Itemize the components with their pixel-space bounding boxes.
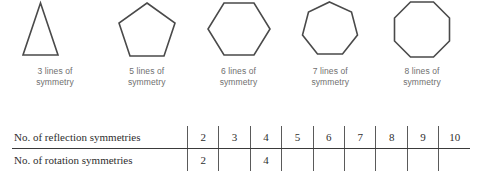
symmetry-table: No. of reflection symmetries 2 3 4 5 6 7… <box>12 126 470 171</box>
reflection-cell-9[interactable]: 10 <box>439 126 470 149</box>
shape-cell-pentagon: 5 lines of symmetry <box>104 0 190 88</box>
heptagon-outline <box>303 2 358 54</box>
triangle-icon <box>20 0 90 60</box>
reflection-cell-7[interactable]: 8 <box>376 126 407 149</box>
triangle-outline <box>23 3 58 55</box>
rotation-cell-7[interactable] <box>376 149 407 172</box>
rotation-cell-6[interactable] <box>345 149 376 172</box>
reflection-cell-1[interactable]: 2 <box>187 126 218 149</box>
shape-caption-pentagon: 5 lines of symmetry <box>128 66 166 88</box>
rotation-cell-2[interactable] <box>219 149 250 172</box>
row-label-reflection: No. of reflection symmetries <box>12 126 187 149</box>
reflection-cell-2[interactable]: 3 <box>219 126 250 149</box>
reflection-cell-5[interactable]: 6 <box>313 126 344 149</box>
octagon-icon <box>387 0 457 60</box>
rotation-cell-9[interactable] <box>439 149 470 172</box>
shape-caption-heptagon: 7 lines of symmetry <box>311 66 349 88</box>
shape-caption-triangle: 3 lines of symmetry <box>36 66 74 88</box>
shape-caption-hexagon: 6 lines of symmetry <box>220 66 258 88</box>
shape-cell-hexagon: 6 lines of symmetry <box>196 0 282 88</box>
heptagon-icon <box>295 0 365 60</box>
shape-cell-heptagon: 7 lines of symmetry <box>287 0 373 88</box>
hexagon-icon <box>204 0 274 60</box>
reflection-cell-8[interactable]: 9 <box>407 126 438 149</box>
table-row-reflection: No. of reflection symmetries 2 3 4 5 6 7… <box>12 126 470 149</box>
shape-cell-octagon: 8 lines of symmetry <box>379 0 465 88</box>
pentagon-outline <box>119 3 175 56</box>
shape-caption-octagon: 8 lines of symmetry <box>403 66 441 88</box>
rotation-cell-4[interactable] <box>282 149 313 172</box>
table-row-rotation: No. of rotation symmetries 2 4 <box>12 149 470 172</box>
rotation-cell-8[interactable] <box>407 149 438 172</box>
rotation-cell-3[interactable]: 4 <box>250 149 281 172</box>
shape-cell-triangle: 3 lines of symmetry <box>12 0 98 88</box>
row-label-rotation: No. of rotation symmetries <box>12 149 187 172</box>
octagon-outline <box>395 2 450 57</box>
shapes-strip: 3 lines of symmetry 5 lines of symmetry … <box>0 0 477 100</box>
hexagon-outline <box>208 3 270 55</box>
rotation-cell-5[interactable] <box>313 149 344 172</box>
rotation-cell-1[interactable]: 2 <box>187 149 218 172</box>
pentagon-icon <box>112 0 182 60</box>
reflection-cell-6[interactable]: 7 <box>345 126 376 149</box>
reflection-cell-4[interactable]: 5 <box>282 126 313 149</box>
reflection-cell-3[interactable]: 4 <box>250 126 281 149</box>
